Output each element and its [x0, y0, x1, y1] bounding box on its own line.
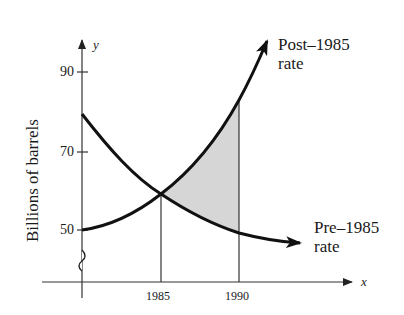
y-tick-label-50: 50	[44, 223, 74, 237]
y-tick-label-70: 70	[44, 145, 74, 159]
y-axis-break-icon	[79, 250, 85, 271]
x-tick-label-1990: 1990	[225, 290, 249, 302]
y-axis-var-label: y	[93, 38, 99, 51]
chart: y x 90 70 50 1985 1990 Billions of barre…	[0, 0, 404, 315]
pre-1985-label-line2: rate	[314, 237, 379, 256]
x-tick-label-1985: 1985	[146, 290, 170, 302]
y-axis-title: Billions of barrels	[24, 119, 41, 242]
y-tick-label-90: 90	[44, 65, 74, 79]
post-1985-label-line2: rate	[278, 54, 350, 73]
pre-1985-label-line1: Pre–1985	[314, 218, 379, 237]
x-axis-var-label: x	[361, 275, 367, 288]
post-1985-label: Post–1985 rate	[278, 35, 350, 73]
pre-1985-label: Pre–1985 rate	[314, 218, 379, 256]
post-1985-label-line1: Post–1985	[278, 35, 350, 54]
